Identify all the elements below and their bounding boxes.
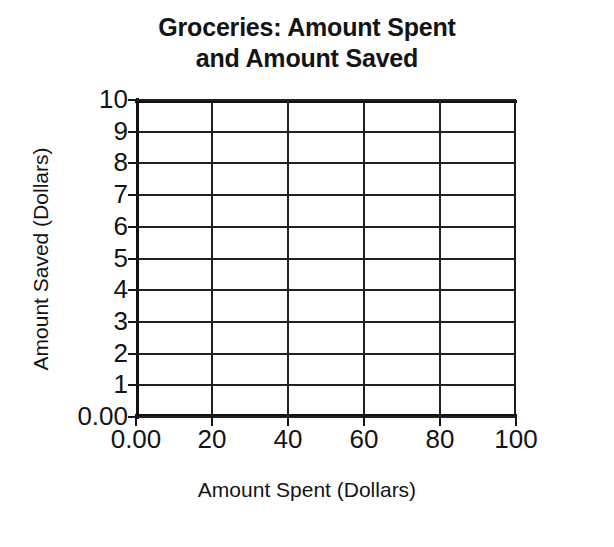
gridline-vertical [287, 100, 289, 417]
gridline-horizontal [136, 194, 516, 196]
y-axis-tick-label: 2 [114, 340, 128, 366]
y-axis-tick [128, 289, 137, 291]
y-axis-tick-labels: 0.0012345678910 [0, 0, 128, 547]
y-axis-tick [128, 131, 137, 133]
y-axis-tick [128, 162, 137, 164]
y-axis-tick-label: 10 [99, 86, 128, 112]
gridline-horizontal [136, 99, 516, 101]
gridline-vertical [363, 100, 365, 417]
gridline-horizontal [136, 258, 516, 260]
y-axis-tick-label: 5 [114, 245, 128, 271]
gridline-horizontal [136, 131, 516, 133]
x-axis-tick-labels: 0.0020406080100 [0, 426, 614, 460]
y-axis-tick [128, 194, 137, 196]
y-axis-tick [128, 353, 137, 355]
x-axis-title: Amount Spent (Dollars) [0, 477, 614, 502]
y-axis-tick [128, 226, 137, 228]
gridline-vertical [439, 100, 441, 417]
gridline-horizontal [136, 289, 516, 291]
gridline-horizontal [136, 353, 516, 355]
y-axis-title: Amount Saved (Dollars) [29, 147, 53, 370]
y-axis-tick-label: 7 [114, 181, 128, 207]
y-axis-tick-label: 8 [114, 149, 128, 175]
y-axis-tick-label: 3 [114, 308, 128, 334]
plot-area [136, 100, 516, 417]
y-axis-tick [128, 258, 137, 260]
gridline-horizontal [136, 226, 516, 228]
y-axis-tick-label: 9 [114, 118, 128, 144]
gridline-horizontal [136, 416, 516, 418]
gridline-horizontal [136, 162, 516, 164]
gridline-vertical [211, 100, 213, 417]
y-axis-tick-label: 1 [114, 371, 128, 397]
gridline-horizontal [136, 384, 516, 386]
y-axis-title-container: Amount Saved (Dollars) [24, 100, 58, 417]
x-axis-tick-label: 100 [456, 426, 576, 452]
y-axis-tick [128, 99, 137, 101]
y-axis-tick [128, 321, 137, 323]
y-axis-tick-label: 6 [114, 213, 128, 239]
gridline-horizontal [136, 321, 516, 323]
y-axis-tick-label: 4 [114, 276, 128, 302]
y-axis-tick [128, 384, 137, 386]
